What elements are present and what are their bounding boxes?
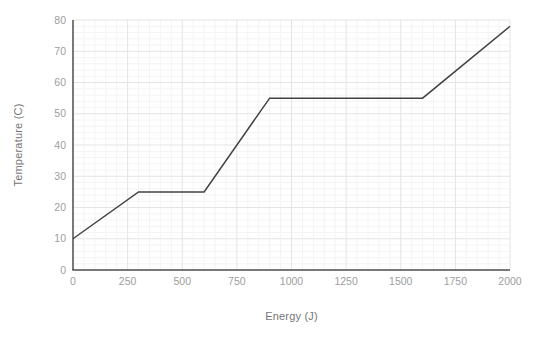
y-tick-label: 50 <box>54 107 66 119</box>
x-tick-label: 1500 <box>389 275 413 287</box>
x-tick-label: 0 <box>70 275 76 287</box>
x-tick-label: 1750 <box>444 275 468 287</box>
x-tick-label: 250 <box>119 275 137 287</box>
y-tick-label: 40 <box>54 139 66 151</box>
x-tick-label: 1000 <box>280 275 304 287</box>
y-tick-label: 80 <box>54 14 66 26</box>
line-plot: 0250500750100012501500175020000102030405… <box>0 0 541 338</box>
y-tick-label: 0 <box>60 264 66 276</box>
y-tick-label: 20 <box>54 201 66 213</box>
y-tick-label: 10 <box>54 232 66 244</box>
y-tick-label: 70 <box>54 45 66 57</box>
x-tick-label: 750 <box>228 275 246 287</box>
x-tick-label: 1250 <box>334 275 358 287</box>
chart-canvas: 0250500750100012501500175020000102030405… <box>0 0 541 338</box>
x-tick-label: 2000 <box>498 275 522 287</box>
y-tick-label: 30 <box>54 170 66 182</box>
x-tick-label: 500 <box>173 275 191 287</box>
x-axis-title: Energy (J) <box>73 310 510 322</box>
y-axis-title: Temperature (C) <box>12 103 24 186</box>
y-tick-label: 60 <box>54 76 66 88</box>
